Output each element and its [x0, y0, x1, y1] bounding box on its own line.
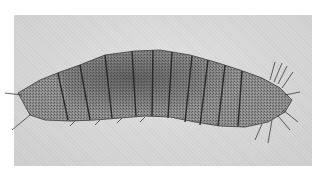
larva-body: [18, 50, 292, 127]
larva-illustration: [0, 0, 325, 174]
